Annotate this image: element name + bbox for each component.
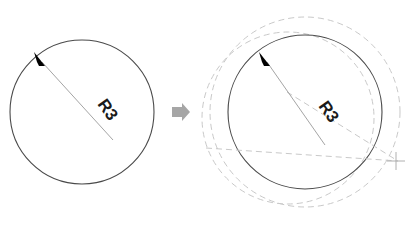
right-radius-label: R3 — [315, 97, 343, 126]
left-main-circle — [10, 40, 154, 184]
right-arrow-icon — [172, 103, 190, 121]
left-radius-label: R3 — [94, 95, 122, 124]
right-figure-group: R3 — [202, 17, 405, 207]
diagram-canvas: R3 R3 — [0, 0, 411, 230]
left-figure-group: R3 — [10, 40, 154, 184]
transition-arrow-group — [172, 103, 190, 121]
outer-construction-circle — [210, 17, 400, 207]
right-radius-leader-line — [267, 62, 325, 145]
technical-drawing-svg: R3 R3 — [0, 0, 411, 230]
